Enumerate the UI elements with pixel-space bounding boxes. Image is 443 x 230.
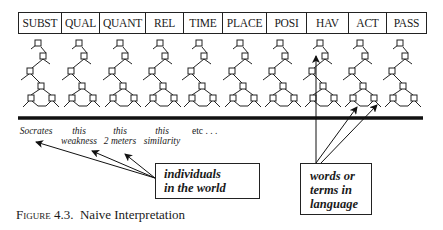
- tree-place: [223, 40, 261, 107]
- individual-label-line2: similarity: [140, 136, 184, 146]
- individual-socrates: Socrates: [16, 126, 56, 136]
- figure-caption: Figure 4.3. Naive Interpretation: [16, 207, 185, 223]
- world-arrows: [36, 142, 155, 178]
- tree-rel: [143, 40, 181, 107]
- individual-label-line2: 2 meters: [100, 136, 140, 146]
- tree-act: [343, 40, 381, 107]
- language-arrows: [316, 56, 377, 163]
- individual-this-2-meters: this 2 meters: [100, 126, 140, 146]
- words-terms-box: words or terms in language: [300, 163, 372, 215]
- tree-quant: [103, 40, 141, 107]
- tree-hav: [303, 40, 341, 107]
- box-line: words or: [310, 169, 362, 183]
- etc-label: etc . . .: [192, 126, 217, 136]
- box-line: individuals: [164, 167, 251, 181]
- box-line: language: [310, 197, 362, 211]
- box-line: in the world: [164, 181, 251, 195]
- individual-label-line1: this: [140, 126, 184, 136]
- individuals-in-world-box: individuals in the world: [155, 163, 260, 199]
- tree-pass: [383, 40, 421, 107]
- tree-subst: [21, 40, 59, 107]
- trees: [21, 40, 421, 107]
- caption-number: 4.3.: [54, 207, 74, 222]
- individual-label-line1: this: [59, 126, 99, 136]
- tree-qual: [62, 40, 100, 107]
- individual-this-similarity: this similarity: [140, 126, 184, 146]
- individual-label-line1: this: [100, 126, 140, 136]
- caption-title: Naive Interpretation: [80, 207, 185, 222]
- individual-label-line2: weakness: [59, 136, 99, 146]
- caption-prefix: Figure: [16, 207, 51, 222]
- tree-posi: [263, 40, 301, 107]
- individual-this-weakness: this weakness: [59, 126, 99, 146]
- box-line: terms in: [310, 183, 362, 197]
- tree-time: [182, 40, 220, 107]
- individual-label-line1: Socrates: [16, 126, 56, 136]
